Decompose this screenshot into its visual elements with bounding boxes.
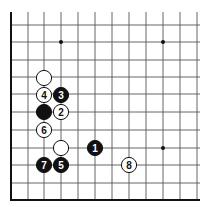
star-point-icon bbox=[161, 40, 165, 44]
white-stone: 2 bbox=[53, 104, 68, 119]
move-number: 6 bbox=[41, 125, 47, 136]
black-stone-icon bbox=[36, 104, 51, 119]
move-number: 8 bbox=[126, 160, 132, 171]
black-stone: 1 bbox=[87, 140, 102, 155]
black-stone: 7 bbox=[36, 157, 51, 172]
move-number: 4 bbox=[41, 90, 47, 101]
white-stone-icon bbox=[36, 70, 51, 85]
black-stone: 5 bbox=[53, 157, 68, 172]
stones-layer: 43261758 bbox=[36, 70, 136, 172]
move-number: 2 bbox=[58, 107, 64, 118]
white-stone bbox=[36, 70, 51, 85]
star-point-icon bbox=[161, 146, 165, 150]
white-stone: 8 bbox=[121, 157, 136, 172]
white-stone: 6 bbox=[36, 122, 51, 137]
white-stone bbox=[53, 140, 68, 155]
black-stone bbox=[36, 104, 51, 119]
move-number: 3 bbox=[58, 90, 64, 101]
move-number: 1 bbox=[92, 143, 98, 154]
go-board: 43261758 bbox=[0, 0, 211, 207]
move-number: 7 bbox=[41, 160, 47, 171]
black-stone: 3 bbox=[53, 87, 68, 102]
white-stone: 4 bbox=[36, 87, 51, 102]
move-number: 5 bbox=[58, 160, 64, 171]
star-point-icon bbox=[59, 40, 63, 44]
white-stone-icon bbox=[53, 140, 68, 155]
